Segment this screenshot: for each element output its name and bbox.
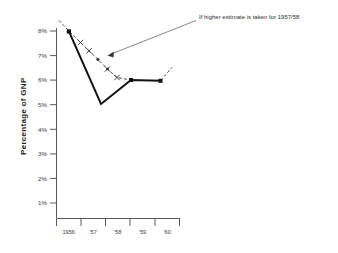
solid-marker-1956: [67, 29, 71, 33]
solid-marker-60: [159, 79, 163, 83]
y-axis-title: Percentage of GNP: [19, 77, 28, 155]
y-tick-label-1: 1%: [38, 199, 47, 206]
y-tick-label-5: 5%: [38, 101, 47, 108]
y-tick-label-6: 6%: [38, 76, 47, 83]
chart-background: [0, 0, 338, 253]
x-tick-label-57: '57: [90, 229, 97, 235]
y-tick-label-4: 4%: [38, 126, 47, 133]
chart-figure: 8% 7% 6% 5% 4% 3% 2% 1% Percentage of GN…: [0, 0, 338, 253]
dashed-dot-marker-2: [106, 68, 109, 71]
x-tick-label-59: '59: [139, 229, 146, 235]
chart-canvas: 8% 7% 6% 5% 4% 3% 2% 1% Percentage of GN…: [0, 0, 338, 253]
y-tick-label-8: 8%: [38, 27, 47, 34]
y-tick-label-2: 2%: [38, 175, 47, 182]
y-tick-label-7: 7%: [38, 52, 47, 59]
dashed-dot-marker-1: [97, 58, 100, 61]
solid-marker-59: [129, 78, 133, 82]
y-tick-label-3: 3%: [38, 150, 47, 157]
annotation-label: If higher estimate is taken for 1957/58: [199, 14, 300, 20]
x-tick-label-58: '58: [114, 229, 121, 235]
x-tick-label-1956: 1956: [62, 229, 74, 235]
x-tick-label-60: '60: [164, 229, 171, 235]
